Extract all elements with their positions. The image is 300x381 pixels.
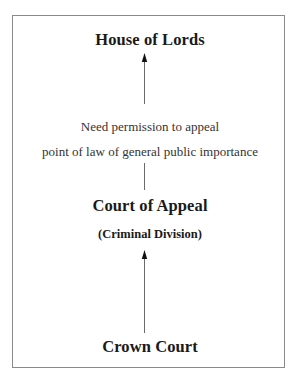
annotation-point-of-law: point of law of general public importanc… [0,144,300,160]
arrow-to-house-of-lords [142,53,147,104]
annotation-permission: Need permission to appeal [0,119,300,135]
node-court-of-appeal-division: (Criminal Division) [0,227,300,242]
arrow-to-court-of-appeal [142,250,147,333]
node-court-of-appeal: Court of Appeal [0,196,300,216]
node-crown-court: Crown Court [0,337,300,357]
arrowhead-icon [142,53,147,62]
connectors [0,0,300,381]
arrowhead-icon [142,250,147,259]
